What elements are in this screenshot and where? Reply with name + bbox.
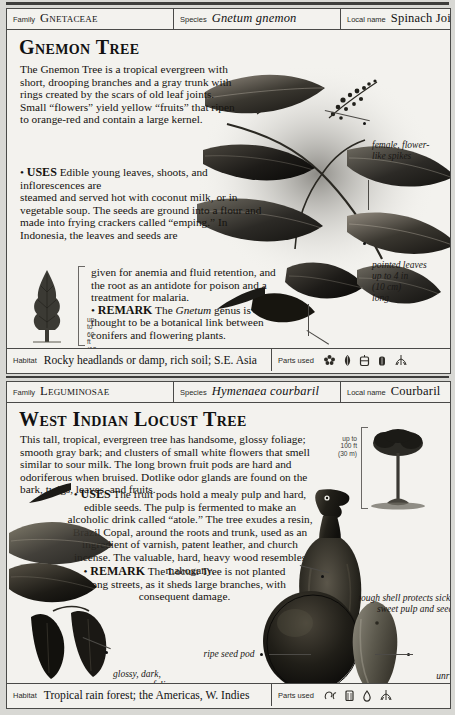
root-icon bbox=[394, 354, 408, 367]
entry-body: West Indian Locust Tree This tall, tropi… bbox=[7, 403, 450, 683]
root-icon bbox=[379, 689, 393, 702]
family-value: Leguminosae bbox=[40, 382, 109, 401]
local-name-cell: Local name Courbaril bbox=[341, 382, 450, 402]
parts-used-label: Parts used bbox=[278, 691, 314, 700]
conical-tree-silhouette bbox=[21, 268, 73, 344]
intro-paragraph: The Gnemon Tree is a tropical evergreen … bbox=[20, 63, 238, 126]
page-title: West Indian Locust Tree bbox=[19, 408, 247, 431]
callout-dot bbox=[363, 122, 366, 125]
plant-entry-card-locust: Family Leguminosae Species Hymenaea cour… bbox=[6, 381, 451, 709]
callout-text: tough shell protects sickly sweet pulp a… bbox=[358, 593, 450, 614]
species-value: Hymenaea courbaril bbox=[212, 382, 319, 401]
species-value: Gnetum gnemon bbox=[212, 9, 297, 28]
page-top-rule bbox=[6, 2, 449, 5]
callout-text: unripe green seed pod bbox=[427, 671, 450, 683]
uses-paragraph-tail: given for anemia and fluid retention, an… bbox=[91, 266, 276, 342]
callout-text: pointed leaves up to 4 in (10 cm) long bbox=[372, 260, 427, 303]
card-divider-rule bbox=[6, 376, 449, 378]
bark-icon bbox=[323, 689, 337, 702]
species-cell: Species Hymenaea courbaril bbox=[174, 382, 341, 402]
callout-unripe-seed-pod: unripe green seed pod bbox=[415, 649, 450, 683]
remark-label: REMARK bbox=[98, 303, 153, 317]
habitat-value: Rocky headlands or damp, rich soil; S.E.… bbox=[44, 354, 257, 367]
uses-label: USES bbox=[27, 165, 57, 179]
callout-ripe-seed-pod: ripe seed pod bbox=[187, 649, 263, 660]
plant-entry-card-gnemon: Family Gnetaceae Species Gnetum gnemon L… bbox=[6, 8, 451, 374]
habitat-cell: Habitat Rocky headlands or damp, rich so… bbox=[7, 349, 272, 371]
entry-footer: Habitat Rocky headlands or damp, rich so… bbox=[7, 348, 450, 371]
fruit-icon bbox=[359, 354, 370, 367]
callout-dot bbox=[105, 651, 108, 654]
habitat-label: Habitat bbox=[13, 691, 37, 700]
scale-label: up to 60 ft (18 m) bbox=[87, 316, 97, 348]
local-name-label: Local name bbox=[347, 383, 386, 402]
species-cell: Species Gnetum gnemon bbox=[174, 9, 341, 29]
pointer-wedge-icon bbox=[27, 481, 73, 505]
wood-icon bbox=[344, 689, 355, 702]
botanical-reference-page: Family Gnetaceae Species Gnetum gnemon L… bbox=[0, 0, 455, 715]
leader-line-ripe-seed-pod bbox=[269, 654, 311, 655]
seed-icon bbox=[377, 354, 387, 367]
entry-body: Gnemon Tree The Gnemon Tree is a tropica… bbox=[7, 30, 450, 348]
callout-text: glossy, dark, evergreen foliage bbox=[113, 669, 179, 683]
resin-icon bbox=[362, 689, 372, 702]
callout-pointed-leaves: pointed leaves up to 4 in (10 cm) long bbox=[372, 238, 450, 304]
callout-dot bbox=[260, 653, 263, 656]
family-cell: Family Gnetaceae bbox=[7, 9, 174, 29]
callout-dot bbox=[363, 242, 366, 245]
callout-text: ripe seed pod bbox=[203, 649, 254, 659]
uses-tail-text: given for anemia and fluid retention, an… bbox=[91, 266, 276, 303]
habitat-label: Habitat bbox=[13, 356, 37, 365]
round-crown-tree-silhouette bbox=[367, 427, 429, 513]
flower-icon bbox=[323, 354, 336, 367]
entry-header: Family Gnetaceae Species Gnetum gnemon L… bbox=[7, 9, 450, 30]
local-name-value: Courbaril bbox=[391, 382, 441, 401]
leader-line-pointed-leaves bbox=[368, 180, 369, 210]
height-scale-diagram: up to 60 ft (18 m) bbox=[21, 268, 73, 348]
entry-footer: Habitat Tropical rain forest; the Americ… bbox=[7, 683, 450, 706]
parts-used-cell: Parts used bbox=[272, 349, 450, 371]
local-name-label: Local name bbox=[347, 10, 386, 29]
entry-header: Family Leguminosae Species Hymenaea cour… bbox=[7, 382, 450, 403]
family-cell: Family Leguminosae bbox=[7, 382, 174, 402]
uses-paragraph-lead: • USES Edible young leaves, shoots, and … bbox=[20, 166, 238, 191]
callout-female-flower-spikes: female, flower- like spikes bbox=[372, 118, 450, 162]
scale-bracket bbox=[78, 266, 85, 346]
species-label: Species bbox=[180, 383, 207, 402]
callout-text: female, flower- like spikes bbox=[372, 140, 429, 161]
uses-paragraph-rest: steamed and served hot with coconut milk… bbox=[20, 191, 270, 241]
genus-name: Gnetum bbox=[175, 304, 211, 316]
height-scale-diagram: up to 100 ft (30 m) bbox=[367, 427, 429, 517]
page-title: Gnemon Tree bbox=[19, 36, 139, 59]
species-label: Species bbox=[180, 10, 207, 29]
habitat-value: Tropical rain forest; the Americas, W. I… bbox=[44, 689, 250, 702]
scale-label: up to 100 ft (30 m) bbox=[329, 435, 357, 457]
habitat-cell: Habitat Tropical rain forest; the Americ… bbox=[7, 684, 272, 706]
parts-used-label: Parts used bbox=[278, 356, 314, 365]
parts-used-cell: Parts used bbox=[272, 684, 450, 706]
callout-tough-shell: tough shell protects sickly sweet pulp a… bbox=[329, 571, 450, 615]
callout-dot bbox=[321, 575, 324, 578]
parts-used-icon-row bbox=[323, 354, 408, 367]
leader-line-opposite-pairs bbox=[308, 304, 309, 336]
local-name-cell: Local name Spinach Joint Fir bbox=[341, 9, 450, 29]
parts-used-icon-row bbox=[323, 689, 393, 702]
family-label: Family bbox=[13, 10, 35, 29]
uses-label: USES bbox=[81, 487, 111, 501]
leaf-icon bbox=[343, 354, 352, 367]
family-label: Family bbox=[13, 383, 35, 402]
family-value: Gnetaceae bbox=[40, 9, 98, 28]
local-name-value: Spinach Joint Fir bbox=[391, 9, 450, 28]
leader-line-unripe-seed-pod bbox=[375, 654, 413, 655]
